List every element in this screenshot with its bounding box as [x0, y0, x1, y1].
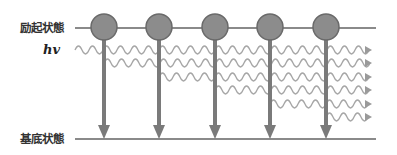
photon-wave [326, 113, 368, 121]
wave-arrowhead-icon [365, 86, 372, 94]
stimulated-emission-diagram: 励起状態 hv 基底状態 [0, 0, 397, 155]
atom-circle-icon [146, 14, 172, 40]
photon-wave [270, 100, 368, 108]
down-arrow-icon [264, 125, 276, 139]
wave-arrowhead-icon [365, 46, 372, 54]
down-arrow-icon [209, 125, 221, 139]
atom-circle-icon [202, 14, 228, 40]
diagram-canvas [0, 0, 397, 155]
transition-arrows [98, 27, 332, 139]
down-arrow-icon [320, 125, 332, 139]
photon-wave [215, 86, 369, 94]
energy-levels [75, 28, 376, 139]
atom-circle-icon [313, 14, 339, 40]
atom-circle-icon [91, 14, 117, 40]
wave-arrowhead-icon [365, 73, 372, 81]
photon-wave [159, 73, 369, 81]
atom-circle-icon [257, 14, 283, 40]
wave-arrowhead-icon [365, 100, 372, 108]
down-arrow-icon [153, 125, 165, 139]
down-arrow-icon [98, 125, 110, 139]
photon-wave [104, 59, 370, 67]
wave-arrowhead-icon [365, 113, 372, 121]
